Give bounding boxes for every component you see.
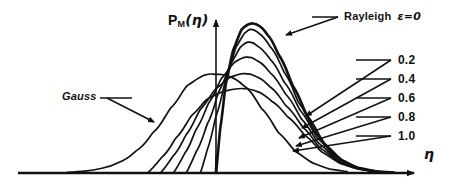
leader-line-gauss: [107, 98, 154, 122]
rayleigh-epsilon-value: ε=0: [397, 10, 421, 23]
y-axis-label-argument: (η): [185, 12, 208, 28]
epsilon-label-3: 0.8: [398, 110, 415, 124]
curve-eps-1-0: [148, 89, 396, 173]
leader-line-rayleigh-0: [286, 17, 338, 35]
leader-line-group: [100, 17, 391, 151]
figure-container: PM(η) η Gauss Rayleighε=0 0.2 0.4 0.6 0.…: [0, 0, 451, 187]
epsilon-label-2: 0.6: [398, 91, 415, 105]
curve-rayleigh-origin-rise: [216, 155, 217, 173]
curve-eps-0-8: [160, 74, 393, 173]
gauss-annotation-label: Gauss: [62, 90, 97, 102]
rayleigh-name: Rayleigh: [344, 10, 391, 22]
epsilon-label-1: 0.4: [398, 72, 415, 86]
curve-eps-0-2: [200, 29, 384, 173]
leader-line-0-2: [306, 60, 391, 116]
epsilon-label-0: 0.2: [398, 53, 415, 67]
rayleigh-annotation-label: Rayleighε=0: [344, 10, 421, 23]
y-axis-label: PM(η): [168, 12, 209, 29]
epsilon-label-4: 1.0: [398, 129, 415, 143]
x-axis-label: η: [424, 146, 434, 162]
y-axis-label-p: P: [168, 12, 178, 28]
